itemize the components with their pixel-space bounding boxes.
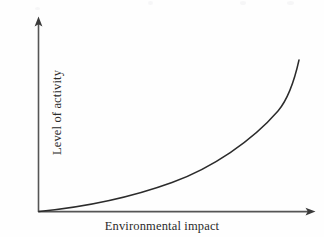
x-axis (38, 208, 316, 216)
y-axis-label-container: Level of activity (0, 0, 44, 224)
figure-canvas: Level of activity Environmental impact (0, 0, 324, 237)
data-series-activity (39, 60, 299, 212)
x-axis-label: Environmental impact (0, 219, 324, 234)
y-axis-label: Level of activity (50, 69, 65, 154)
chart-plot-area (0, 0, 324, 237)
